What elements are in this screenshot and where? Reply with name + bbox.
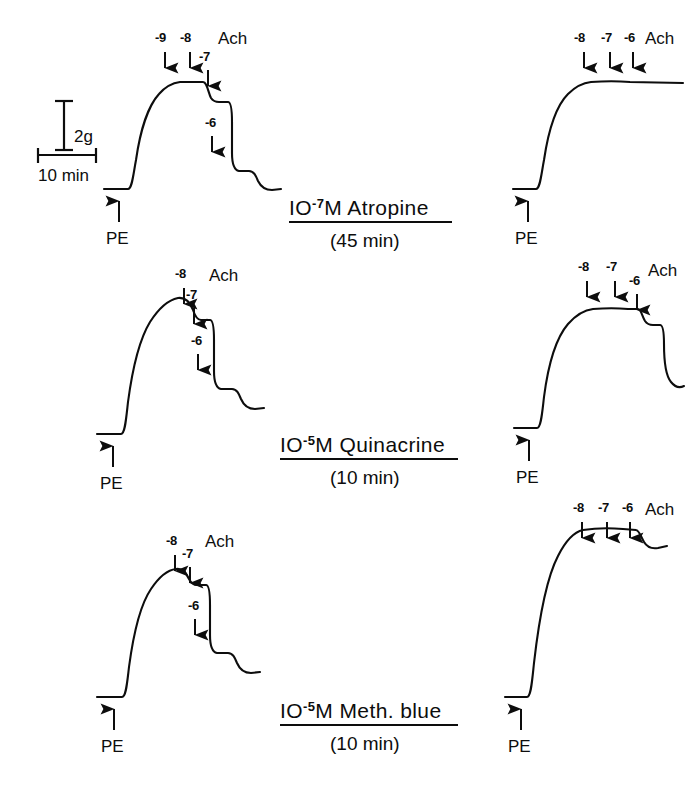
caption-suffix: M Quinacrine (315, 433, 445, 456)
caption-duration-quinacrine: (10 min) (330, 467, 400, 488)
caption-atropine: IO-7M Atropine (45 min) (289, 196, 452, 252)
caption-duration-methylene-blue: (10 min) (330, 733, 400, 754)
caption-suffix: M Meth. blue (315, 699, 441, 722)
panel-atropine-treated: -8 -7 -6 Ach PE (505, 29, 692, 255)
caption-title-atropine: IO-7M Atropine (289, 196, 429, 220)
panel-quinacrine-treated: -8 -7 -6 Ach PE (505, 258, 692, 490)
figure-root: 2g 10 min -9 -8 -7 -6 Ach PE (0, 0, 692, 789)
panel-atropine-control-hitbox[interactable] (95, 30, 295, 255)
panel-methylene-blue-treated: -8 -7 -6 Ach PE (498, 500, 692, 765)
caption-title-quinacrine: IO-5M Quinacrine (280, 433, 445, 457)
panel-methylene-blue-control-hitbox[interactable] (88, 532, 278, 764)
caption-quinacrine: IO-5M Quinacrine (10 min) (280, 433, 458, 489)
caption-suffix: M Atropine (324, 196, 428, 219)
caption-methylene-blue: IO-5M Meth. blue (10 min) (280, 699, 458, 755)
caption-title-methylene-blue: IO-5M Meth. blue (280, 699, 442, 723)
panel-atropine-control: -9 -8 -7 -6 Ach PE (95, 29, 295, 255)
scale-bar: 2g 10 min (38, 101, 96, 185)
caption-duration-atropine: (45 min) (330, 230, 400, 251)
caption-prefix: IO (289, 196, 312, 219)
panel-atropine-treated-hitbox[interactable] (505, 30, 692, 255)
tension-trace-figure: 2g 10 min -9 -8 -7 -6 Ach PE (0, 0, 692, 789)
panel-quinacrine-treated-hitbox[interactable] (505, 258, 692, 490)
panel-quinacrine-control-hitbox[interactable] (88, 265, 283, 500)
caption-exponent: -7 (312, 196, 324, 211)
panel-methylene-blue-treated-hitbox[interactable] (498, 500, 692, 765)
caption-exponent: -5 (303, 433, 315, 448)
scale-bar-vertical-label: 2g (74, 127, 93, 146)
caption-prefix: IO (280, 699, 303, 722)
caption-prefix: IO (280, 433, 303, 456)
panel-quinacrine-control: -8 -7 -6 Ach PE (88, 265, 283, 500)
scale-bar-horizontal-label: 10 min (38, 166, 89, 185)
caption-exponent: -5 (303, 699, 315, 714)
panel-methylene-blue-control: -8 -7 -6 Ach PE (88, 532, 278, 764)
